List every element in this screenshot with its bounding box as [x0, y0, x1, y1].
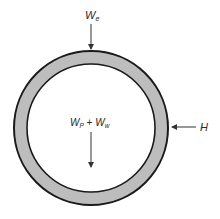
pipe-ring	[14, 51, 168, 205]
earth-load: We	[85, 9, 99, 49]
earth-load-label: We	[85, 9, 99, 22]
internal-load-label: WP + Ww	[70, 117, 111, 129]
horizontal-load-label: H	[200, 121, 208, 133]
pipe-load-diagram: We WP + Ww H	[0, 0, 220, 219]
horizontal-load: H	[172, 121, 208, 133]
